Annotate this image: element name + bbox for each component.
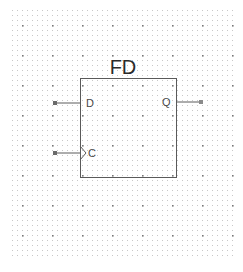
pin-q-label: Q	[162, 96, 171, 108]
component-title: FD	[110, 56, 137, 78]
component-body[interactable]	[81, 79, 177, 178]
pin-c-connector-square[interactable]	[53, 151, 57, 155]
pin-c-label: C	[88, 147, 96, 159]
grid-dots	[12, 10, 234, 256]
pin-q[interactable]: Q	[162, 96, 203, 108]
pin-c[interactable]: C	[53, 146, 96, 160]
pin-d-connector-square[interactable]	[53, 101, 57, 105]
pin-q-connector-square[interactable]	[199, 100, 203, 104]
fd-flip-flop-symbol[interactable]: FD D C Q	[53, 56, 203, 178]
schematic-canvas[interactable]: FD D C Q	[0, 0, 243, 272]
pin-d-label: D	[86, 97, 94, 109]
pin-d[interactable]: D	[53, 97, 94, 109]
